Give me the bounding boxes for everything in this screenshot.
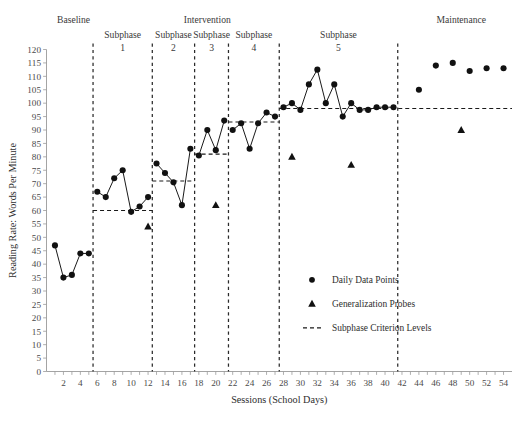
y-tick-label: 80: [32, 152, 42, 162]
y-tick-label: 40: [32, 259, 42, 269]
subphase-number-label: 3: [209, 42, 214, 53]
x-tick-label: 4: [78, 378, 83, 388]
x-tick-label: 34: [330, 378, 340, 388]
reading-rate-chart: 0510152025303540455055606570758085909510…: [0, 0, 523, 438]
y-axis-title: Reading Rate: Words Per Minute: [7, 143, 18, 278]
y-tick-label: 90: [32, 125, 42, 135]
phase-label: Baseline: [57, 14, 90, 25]
y-tick-label: 0: [36, 367, 41, 377]
daily-data-point: [221, 118, 227, 124]
x-tick-label: 50: [465, 378, 475, 388]
y-tick-label: 65: [32, 192, 42, 202]
daily-data-point: [323, 100, 329, 106]
y-tick-label: 100: [27, 98, 41, 108]
series-connector-line: [233, 113, 275, 149]
generalization-probes-group: [144, 126, 465, 229]
y-tick-label: 110: [28, 72, 42, 82]
data-series-group: [52, 60, 507, 281]
y-tick-label: 120: [27, 45, 41, 55]
y-tick-label: 55: [32, 219, 42, 229]
y-tick-label: 60: [32, 206, 42, 216]
subphase-label: Subphase: [320, 29, 357, 40]
y-tick-label: 75: [32, 166, 42, 176]
generalization-probe-point: [212, 201, 220, 208]
daily-data-point: [433, 63, 439, 69]
daily-data-point: [247, 146, 253, 152]
daily-data-point: [179, 202, 185, 208]
x-tick-label: 48: [448, 378, 458, 388]
legend-circle-icon: [309, 277, 315, 283]
daily-data-point: [297, 107, 303, 113]
criterion-lines: [93, 109, 512, 211]
daily-data-point: [94, 189, 100, 195]
daily-data-point: [331, 81, 337, 87]
data-series: [416, 60, 507, 93]
subphase-label: Subphase: [235, 29, 272, 40]
daily-data-point: [306, 81, 312, 87]
daily-data-point: [52, 242, 58, 248]
data-series: [280, 67, 396, 120]
x-tick-label: 22: [228, 378, 238, 388]
x-tick-label: 10: [127, 378, 137, 388]
x-tick-label: 36: [347, 378, 357, 388]
daily-data-point: [111, 175, 117, 181]
y-tick-label: 95: [32, 112, 42, 122]
daily-data-point: [69, 272, 75, 278]
series-connector-line: [199, 121, 224, 156]
y-tick-label: 70: [32, 179, 42, 189]
daily-data-point: [289, 100, 295, 106]
x-tick-label: 42: [397, 378, 407, 388]
legend-entry: Subphase Criterion Levels: [303, 323, 432, 333]
generalization-probe-point: [457, 126, 465, 133]
daily-data-point: [187, 146, 193, 152]
generalization-probe-point: [288, 153, 296, 160]
daily-data-point: [162, 170, 168, 176]
x-tick-label: 2: [61, 378, 66, 388]
x-axis-ticks: 2468101214161820222426283032343638404244…: [55, 372, 509, 389]
subphase-label: Subphase: [104, 29, 141, 40]
daily-data-point: [103, 194, 109, 200]
daily-data-point: [390, 104, 396, 110]
daily-data-point: [137, 203, 143, 209]
x-tick-label: 32: [313, 378, 323, 388]
x-tick-label: 14: [160, 378, 170, 388]
y-tick-label: 105: [27, 85, 41, 95]
daily-data-point: [145, 194, 151, 200]
data-series: [52, 242, 92, 280]
daily-data-point: [357, 107, 363, 113]
x-tick-label: 40: [380, 378, 390, 388]
figure-container: 0510152025303540455055606570758085909510…: [0, 0, 523, 438]
daily-data-point: [365, 107, 371, 113]
data-series: [153, 146, 193, 208]
series-connector-line: [157, 149, 191, 205]
y-tick-label: 15: [32, 327, 42, 337]
subphase-number-label: 1: [120, 42, 125, 53]
data-series: [230, 110, 278, 152]
daily-data-point: [348, 100, 354, 106]
daily-data-point: [213, 147, 219, 153]
y-axis-ticks: 0510152025303540455055606570758085909510…: [27, 45, 46, 377]
daily-data-point: [272, 114, 278, 120]
daily-data-point: [374, 104, 380, 110]
y-tick-label: 115: [28, 58, 42, 68]
x-tick-label: 24: [245, 378, 255, 388]
legend: Daily Data PointsGeneralization ProbesSu…: [303, 275, 432, 333]
y-tick-label: 50: [32, 233, 42, 243]
daily-data-point: [255, 120, 261, 126]
daily-data-point: [196, 152, 202, 158]
daily-data-point: [128, 209, 134, 215]
x-tick-label: 26: [262, 378, 272, 388]
x-tick-label: 52: [482, 378, 492, 388]
x-tick-label: 6: [95, 378, 100, 388]
daily-data-point: [340, 114, 346, 120]
subphase-label: Subphase: [155, 29, 192, 40]
subphase-label: Subphase: [193, 29, 230, 40]
daily-data-point: [170, 179, 176, 185]
legend-entry-label: Generalization Probes: [332, 299, 415, 309]
daily-data-point: [500, 65, 506, 71]
x-tick-label: 38: [364, 378, 374, 388]
y-tick-label: 25: [32, 300, 42, 310]
daily-data-point: [280, 104, 286, 110]
x-axis-title: Sessions (School Days): [231, 394, 327, 406]
data-series: [94, 167, 151, 215]
